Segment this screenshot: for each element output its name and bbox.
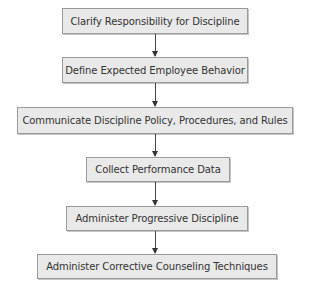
step-2-box: Define Expected Employee Behavior — [62, 57, 248, 83]
arrow-2-icon — [155, 83, 156, 106]
step-4-label: Collect Performance Data — [95, 164, 220, 175]
arrow-4-icon — [155, 182, 156, 205]
step-3-box: Communicate Discipline Policy, Procedure… — [17, 107, 293, 134]
step-6-box: Administer Corrective Counseling Techniq… — [37, 254, 277, 279]
arrow-1-icon — [155, 34, 156, 56]
step-5-label: Administer Progressive Discipline — [76, 213, 239, 224]
step-1-box: Clarify Responsibility for Discipline — [62, 8, 248, 34]
step-4-box: Collect Performance Data — [86, 157, 230, 182]
step-1-label: Clarify Responsibility for Discipline — [70, 16, 239, 27]
step-5-box: Administer Progressive Discipline — [66, 206, 248, 231]
step-3-label: Communicate Discipline Policy, Procedure… — [22, 115, 287, 126]
arrow-5-icon — [155, 231, 156, 253]
step-2-label: Define Expected Employee Behavior — [65, 65, 244, 76]
arrow-3-icon — [155, 134, 156, 156]
step-6-label: Administer Corrective Counseling Techniq… — [46, 261, 268, 272]
